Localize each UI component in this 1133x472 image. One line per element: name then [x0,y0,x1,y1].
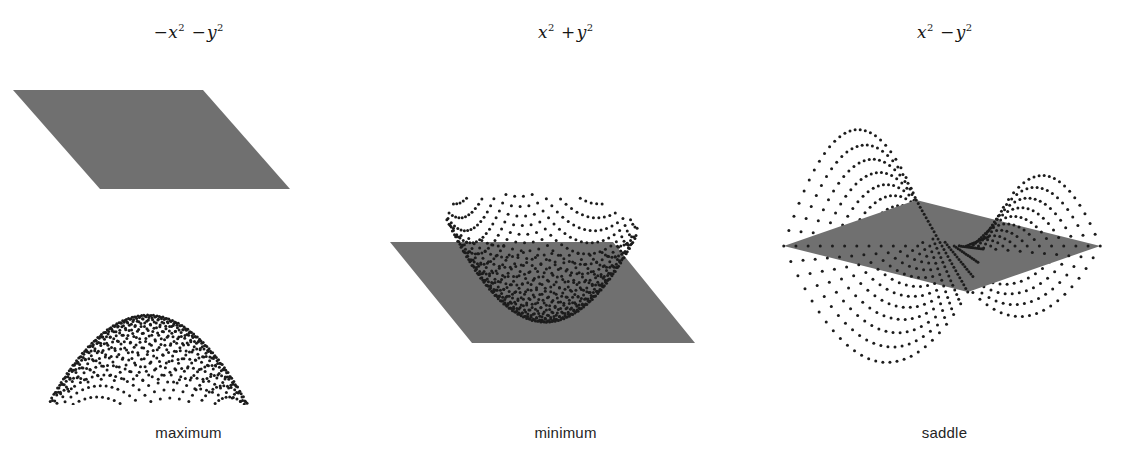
surface-dot [78,400,81,403]
surface-dot [507,275,510,278]
surface-dot [904,197,907,200]
surface-dot [822,208,825,211]
surface-dot [514,241,517,244]
surface-dot [82,356,85,359]
surface-dot [518,307,521,310]
surface-dot [840,155,843,158]
surface-dot [534,308,537,311]
surface-dot [121,334,124,337]
surface-dot [603,275,606,278]
surface-dot [603,216,606,219]
surface-dot [188,351,191,354]
surface-dot [209,375,212,378]
surface-dot [204,394,207,397]
surface-dot [1025,289,1028,292]
surface-dot [855,245,858,248]
surface-dot [532,279,535,282]
surface-dot [828,281,831,284]
surface-dot [803,190,806,193]
surface-dot [940,279,943,282]
surface-dot [1023,197,1026,200]
surface-dot [172,335,175,338]
surface-dot [832,329,835,332]
surface-dot [1019,216,1022,219]
surface-dot [205,389,208,392]
surface-dot [139,365,142,368]
surface-dot [816,284,819,287]
surface-dot [535,286,538,289]
surface-dot [148,335,151,338]
surface-dot [902,189,905,192]
surface-dot [813,169,816,172]
surface-dot [539,263,542,266]
surface-dot [994,248,997,251]
surface-dot [937,237,940,240]
surface-dot [906,330,909,333]
surface-dot [1000,210,1003,213]
surface-dot [527,297,530,300]
surface-dot [899,195,902,198]
surface-dot [526,281,529,284]
surface-dot [201,355,204,358]
surface-dot [595,290,598,293]
surface-dot [592,216,595,219]
formula-exponent-2: 2 [217,22,223,33]
surface-dot [1047,222,1050,225]
surface-dot [586,215,589,218]
surface-dot [1055,253,1058,256]
surface-dot [526,233,529,236]
surface-dot [135,374,138,377]
surface-dot [86,362,89,365]
surface-dot [917,276,920,279]
surface-dot [568,260,571,263]
surface-dot [72,377,75,380]
surface-dot [561,316,564,319]
surface-dot [1020,280,1023,283]
surface-dot [116,388,119,391]
surface-dot [907,295,910,298]
surface-dot [530,316,533,319]
surface-dot [884,273,887,276]
surface-dot [476,252,479,255]
surface-dot [219,384,222,387]
surface-dot [556,275,559,278]
surface-dot [590,297,593,300]
surface-dot [549,234,552,237]
surface-dot [1043,252,1046,255]
surface-dot [164,366,167,369]
surface-dot [521,283,524,286]
surface-dot [131,332,134,335]
surface-dot [1016,207,1019,210]
surface-dot [1046,189,1049,192]
surface-dot [931,238,934,241]
surface-dot [524,277,527,280]
surface-dot [190,361,193,364]
surface-dot [601,282,604,285]
surface-dot [532,241,535,244]
surface-dot [601,251,604,254]
surface-dot [589,229,592,232]
surface-dot [531,258,534,261]
surface-dot [461,216,464,219]
surface-dot [167,351,170,354]
formula-operator: + [560,22,577,42]
surface-dot [593,295,596,298]
surface-dot [826,257,829,260]
surface-dot [185,349,188,352]
surface-dot [495,269,498,272]
surface-dot [887,251,890,254]
surface-dot [1037,213,1040,216]
surface-dot [138,337,141,340]
surface-dot [527,204,530,207]
surface-dot [617,255,620,258]
surface-dot [462,200,465,203]
surface-dot [127,351,130,354]
surface-dot [911,317,914,320]
surface-dot [500,292,503,295]
surface-dot [1001,245,1004,248]
surface-dot [614,212,617,215]
surface-dot [227,378,230,381]
surface-dot [1031,251,1034,254]
surface-dot [559,301,562,304]
surface-dot [1040,231,1043,234]
